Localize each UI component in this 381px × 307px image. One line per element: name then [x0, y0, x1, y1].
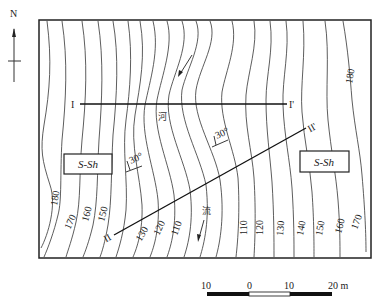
river-label-liu: 流: [202, 205, 211, 216]
svg-text:0: 0: [247, 280, 252, 291]
svg-text:110: 110: [169, 219, 184, 237]
svg-text:160: 160: [79, 205, 94, 222]
svg-text:20 m: 20 m: [328, 280, 349, 291]
svg-text:10: 10: [201, 280, 211, 291]
formation-box-left: S-Sh: [64, 154, 112, 174]
svg-text:130: 130: [274, 220, 286, 236]
flow-arrow-bottom: [197, 220, 204, 242]
river-label-he: 河: [158, 111, 167, 122]
svg-text:140: 140: [294, 220, 307, 237]
svg-text:160: 160: [332, 217, 347, 234]
formation-box-right: S-Sh: [300, 151, 349, 172]
svg-text:150: 150: [313, 220, 326, 237]
svg-text:30°: 30°: [213, 125, 230, 141]
section-1-end: I': [289, 99, 294, 110]
north-label: N: [10, 8, 17, 19]
svg-text:180: 180: [343, 68, 356, 85]
svg-text:30°: 30°: [127, 150, 144, 166]
svg-text:10: 10: [284, 280, 294, 291]
svg-text:120: 120: [254, 220, 265, 235]
section-2-end: II': [306, 120, 319, 134]
dip-symbol-left: 30°: [126, 150, 145, 172]
section-2-start: II: [102, 231, 113, 244]
scale-bar: 10 0 10 20 m: [201, 280, 349, 296]
dip-symbol-right: 30°: [212, 125, 231, 147]
north-arrow: [8, 28, 21, 82]
svg-text:130: 130: [133, 225, 150, 243]
svg-text:170: 170: [62, 213, 78, 231]
geologic-map: I I' II II' S-Sh S-Sh 30° 30° 河 流 180 17…: [0, 0, 381, 307]
svg-text:120: 120: [151, 219, 167, 237]
svg-text:S-Sh: S-Sh: [78, 158, 99, 170]
section-line-2: [114, 128, 306, 235]
svg-text:S-Sh: S-Sh: [314, 156, 335, 168]
svg-text:110: 110: [238, 220, 249, 235]
svg-text:170: 170: [349, 213, 364, 231]
svg-text:150: 150: [95, 205, 110, 222]
section-1-start: I: [71, 99, 74, 110]
